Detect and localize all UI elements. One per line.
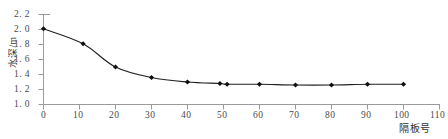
data-point-marker [185, 79, 190, 84]
y-axis-title: 水深/m [9, 37, 19, 68]
y-tick-label-1-4: 1. 4 [14, 70, 30, 80]
x-tick-label-70: 70 [289, 111, 299, 121]
x-tick-label-30: 30 [145, 111, 155, 121]
y-tick-label-1-0: 1. 0 [14, 100, 30, 110]
chart-container: 2. 2 2. 0 1. 8 1. 6 1. 4 1. 2 1. 0 水深/m … [0, 0, 448, 139]
data-point-markers [41, 26, 406, 87]
x-tick-label-110: 110 [430, 111, 445, 121]
x-tick-label-20: 20 [109, 111, 119, 121]
data-series-line [44, 29, 404, 85]
data-point-marker [329, 82, 334, 87]
y-tick-label-2-0: 2. 0 [14, 25, 30, 35]
data-point-marker [293, 82, 298, 87]
data-point-marker [257, 82, 262, 87]
data-point-marker [149, 75, 154, 80]
data-point-marker [225, 82, 230, 87]
x-tick-label-80: 80 [325, 111, 335, 121]
data-point-marker [81, 41, 86, 46]
x-axis-ticks [44, 105, 440, 110]
x-tick-label-50: 50 [217, 111, 227, 121]
data-point-marker [217, 81, 222, 86]
x-axis-title: 隔板号 [399, 124, 431, 134]
x-tick-label-0: 0 [41, 111, 46, 121]
y-tick-label-2-2: 2. 2 [14, 10, 30, 20]
data-point-marker [41, 26, 46, 31]
y-tick-label-1-2: 1. 2 [14, 85, 30, 95]
axis-lines [44, 14, 441, 105]
x-tick-label-100: 100 [394, 111, 409, 121]
data-point-marker [401, 82, 406, 87]
x-tick-label-10: 10 [73, 111, 83, 121]
x-tick-label-90: 90 [361, 111, 371, 121]
x-tick-label-60: 60 [253, 111, 263, 121]
x-tick-label-40: 40 [181, 111, 191, 121]
data-point-marker [113, 64, 118, 69]
data-point-marker [365, 82, 370, 87]
